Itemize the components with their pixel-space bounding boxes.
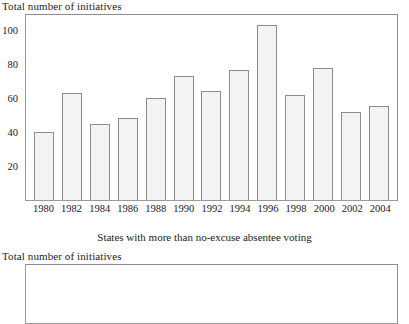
x-tick-label: 1990: [173, 203, 193, 215]
x-tick-label: 1980: [33, 203, 53, 215]
chart-initiatives-absentee-voting: Total number of initiatives 20406080100 …: [0, 0, 409, 228]
bar: [34, 132, 54, 200]
x-tick-label: 2000: [314, 203, 334, 215]
plot-area: [25, 14, 398, 201]
x-tick-label: 1994: [229, 203, 249, 215]
y-axis-title-second-chart: Total number of initiatives: [0, 250, 122, 263]
bar: [174, 76, 194, 200]
x-tick-label: 2002: [342, 203, 362, 215]
y-tick-label: 20: [8, 162, 19, 172]
bar: [229, 70, 249, 200]
bar-series: [26, 15, 397, 200]
x-tick-label: 1984: [89, 203, 109, 215]
x-axis-labels: 1980198219841986198819901992199419961998…: [25, 203, 398, 215]
bar: [118, 118, 138, 200]
y-axis: 20406080100: [0, 14, 25, 201]
bar: [341, 112, 361, 200]
bar: [62, 93, 82, 200]
y-tick-label: 40: [8, 128, 19, 138]
y-axis-title: Total number of initiatives: [0, 0, 122, 13]
bar: [201, 91, 221, 200]
x-tick-label: 1986: [117, 203, 137, 215]
x-tick-label: 1988: [145, 203, 165, 215]
y-tick-label: 100: [2, 26, 18, 36]
x-tick-label: 1996: [258, 203, 278, 215]
x-tick-label: 1982: [61, 203, 81, 215]
plot-inner: [26, 15, 397, 200]
chart-caption: States with more than no-excuse absentee…: [0, 231, 409, 244]
y-tick-label: 80: [8, 60, 19, 70]
bar: [369, 106, 389, 200]
x-tick-label: 2004: [370, 203, 390, 215]
x-tick-label: 1992: [201, 203, 221, 215]
bar: [285, 95, 305, 200]
bar: [313, 68, 333, 200]
bar: [90, 124, 110, 201]
bar: [146, 98, 166, 200]
plot-area-second-chart: [25, 264, 398, 324]
chart-next-partial: Total number of initiatives: [0, 250, 409, 275]
x-tick-label: 1998: [286, 203, 306, 215]
bar: [257, 25, 277, 200]
y-tick-label: 60: [8, 94, 19, 104]
